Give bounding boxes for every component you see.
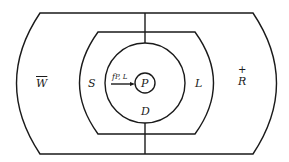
- flux-label: fP, L: [112, 73, 127, 81]
- label-d: D: [141, 106, 150, 117]
- label-l: L: [195, 78, 202, 89]
- arrow-head-icon: [130, 82, 135, 86]
- label-s: S: [88, 78, 96, 89]
- label-p: P: [141, 78, 148, 89]
- plus-icon: +: [238, 65, 246, 75]
- label-r: R: [238, 76, 246, 87]
- label-w: W: [36, 78, 47, 89]
- flux-subscript: P, L: [115, 73, 127, 81]
